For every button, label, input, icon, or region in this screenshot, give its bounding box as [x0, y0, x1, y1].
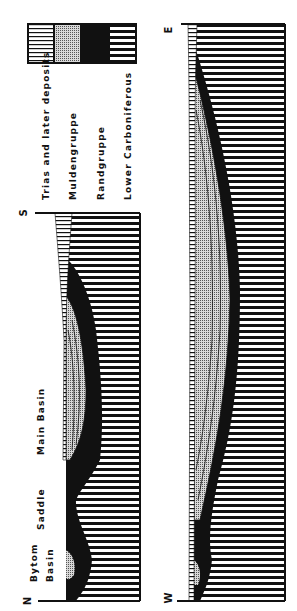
legend-swatch-muldengruppe — [55, 25, 80, 62]
feature-label-bytom: Bytom — [29, 543, 39, 582]
section-north-south — [35, 213, 140, 601]
legend: Trias and later deposits Muldengruppe Ra… — [27, 23, 137, 200]
feature-label-bytom-basin: Basin — [45, 548, 55, 582]
legend-label-muldengruppe: Muldengruppe — [68, 112, 78, 200]
legend-label-lower-carboniferous: Lower Carboniferous — [123, 72, 133, 200]
legend-label-trias: Trias and later deposits — [41, 51, 51, 200]
section-west-east — [177, 24, 285, 601]
section-start-label-w: W — [163, 592, 174, 603]
section-start-label-n: N — [22, 597, 33, 605]
section-end-label-s: S — [18, 209, 29, 216]
feature-label-main-basin: Main Basin — [36, 388, 46, 455]
section-end-label-e: E — [163, 26, 174, 33]
geological-cross-section-figure: Trias and later deposits Muldengruppe Ra… — [0, 0, 297, 611]
legend-swatch-lower-carboniferous — [110, 25, 135, 62]
legend-label-randgruppe: Randgruppe — [96, 126, 106, 200]
legend-swatch-randgruppe — [82, 25, 108, 62]
feature-label-saddle: Saddle — [36, 488, 46, 530]
